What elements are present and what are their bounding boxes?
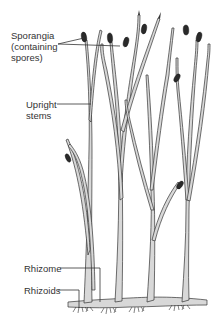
upright-stem bbox=[150, 28, 174, 190]
upright-stems-label: Upright stems bbox=[26, 99, 57, 121]
sporangium bbox=[195, 31, 203, 42]
sporangia-label: Sporangia (containing spores) bbox=[11, 30, 57, 63]
sporangia-label-line2: (containing bbox=[11, 41, 57, 52]
sporangium bbox=[141, 24, 148, 35]
rhizome-label: Rhizome bbox=[24, 263, 62, 274]
sporangium bbox=[107, 33, 113, 43]
stem-tip bbox=[158, 12, 161, 19]
upright-stems-label-line2: stems bbox=[26, 110, 57, 121]
upright-stems-label-line1: Upright bbox=[26, 99, 57, 110]
stem-tip bbox=[138, 10, 140, 15]
sporangia-label-line1: Sporangia bbox=[11, 30, 57, 41]
upright-stem bbox=[89, 30, 102, 122]
sporangia-label-line3: spores) bbox=[11, 52, 57, 63]
sporangium bbox=[81, 32, 88, 43]
upright-stem bbox=[84, 40, 92, 303]
sporangium bbox=[183, 25, 189, 35]
sporangium bbox=[122, 36, 130, 47]
sporangium bbox=[173, 73, 182, 83]
upright-stem bbox=[152, 182, 180, 241]
rhizoids-label: Rhizoids bbox=[24, 285, 60, 296]
